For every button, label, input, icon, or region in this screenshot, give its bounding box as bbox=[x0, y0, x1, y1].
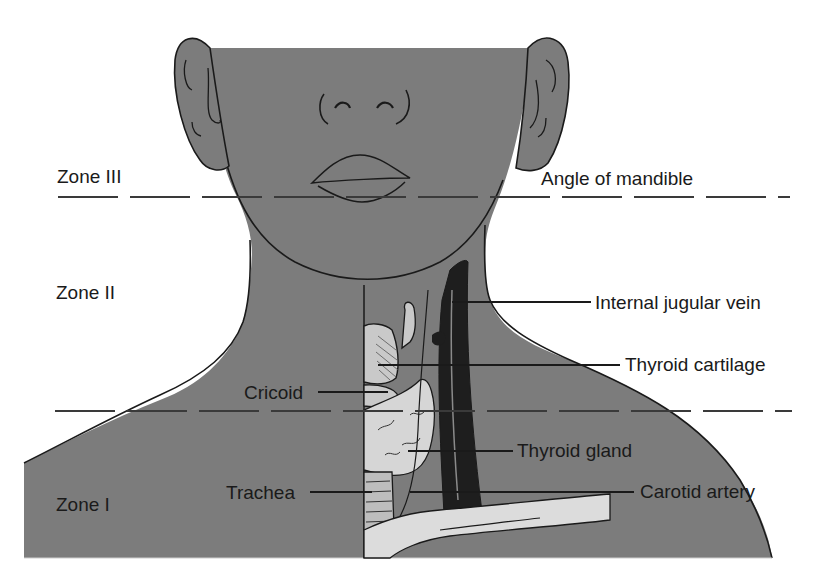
trachea-label: Trachea bbox=[226, 483, 295, 502]
zone-i-label: Zone I bbox=[56, 495, 110, 514]
thyroid-gland-label: Thyroid gland bbox=[517, 441, 632, 460]
thyroid-cartilage-label: Thyroid cartilage bbox=[625, 355, 765, 374]
carotid-artery-label: Carotid artery bbox=[640, 482, 755, 501]
internal-jugular-vein-label: Internal jugular vein bbox=[595, 293, 761, 312]
angle-of-mandible-label: Angle of mandible bbox=[541, 169, 693, 188]
zone-ii-label: Zone II bbox=[56, 283, 115, 302]
cricoid-label: Cricoid bbox=[244, 383, 303, 402]
zone-iii-label: Zone III bbox=[57, 167, 121, 186]
